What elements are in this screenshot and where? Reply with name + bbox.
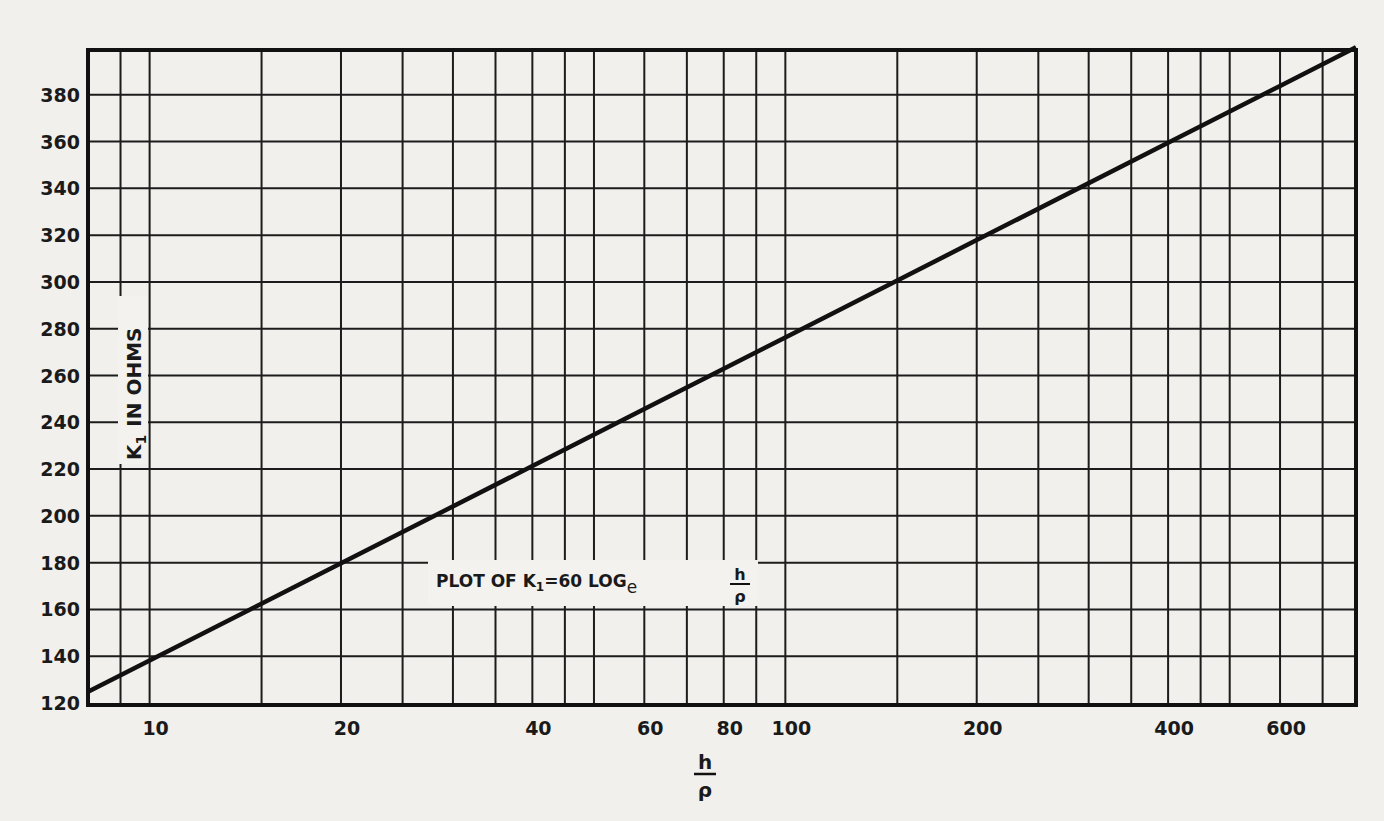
svg-text:h: h (734, 565, 745, 584)
plot-frame (88, 50, 1356, 705)
x-tick-label: 400 (1154, 717, 1194, 739)
svg-text:ρ: ρ (698, 778, 712, 802)
svg-text:ρ: ρ (734, 587, 745, 606)
x-tick-label: 100 (772, 717, 812, 739)
x-tick-label: 600 (1266, 717, 1306, 739)
y-tick-label: 340 (40, 177, 80, 199)
x-tick-label: 60 (637, 717, 663, 739)
x-axis-ticks: 1020406080100200400600 (142, 717, 1305, 739)
x-tick-label: 200 (963, 717, 1003, 739)
svg-text:h: h (698, 750, 712, 774)
y-tick-label: 140 (40, 645, 80, 667)
y-tick-label: 280 (40, 318, 80, 340)
x-tick-label: 40 (525, 717, 551, 739)
x-tick-label: 20 (334, 717, 360, 739)
y-tick-label: 120 (40, 692, 80, 714)
y-tick-label: 320 (40, 224, 80, 246)
y-tick-label: 160 (40, 598, 80, 620)
chart: 1201401601802002202402602803003203403603… (0, 0, 1384, 821)
x-tick-label: 80 (717, 717, 743, 739)
y-tick-label: 360 (40, 131, 80, 153)
y-tick-label: 180 (40, 552, 80, 574)
y-tick-label: 300 (40, 271, 80, 293)
y-tick-label: 200 (40, 505, 80, 527)
vertical-gridlines (121, 50, 1323, 705)
x-axis-label: h ρ (694, 750, 716, 802)
y-axis-ticks: 1201401601802002202402602803003203403603… (40, 84, 80, 714)
y-tick-label: 260 (40, 365, 80, 387)
y-tick-label: 240 (40, 411, 80, 433)
y-tick-label: 380 (40, 84, 80, 106)
x-tick-label: 10 (142, 717, 168, 739)
y-tick-label: 220 (40, 458, 80, 480)
